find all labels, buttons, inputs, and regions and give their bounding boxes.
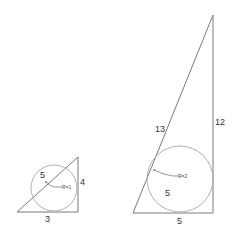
- small-vertical-label: 4: [80, 177, 85, 187]
- small-base-label: 3: [45, 214, 50, 224]
- small-radius-dot: [45, 181, 47, 183]
- small-radius-leader: [46, 182, 62, 187]
- large-radius-label: R=2: [178, 173, 188, 179]
- large-base-label: 5: [177, 216, 182, 226]
- large-vertical-label: 12: [215, 117, 225, 127]
- large-incircle: [147, 146, 213, 212]
- small-triangle: 5 4 3 R=1: [17, 157, 85, 224]
- small-radius-label: R=1: [62, 184, 72, 190]
- large-triangle-edges: [133, 15, 213, 213]
- large-hypotenuse-label: 13: [155, 124, 165, 134]
- diagram-canvas: 5 4 3 R=1 13 12 5 R=2 5: [0, 0, 236, 235]
- large-inner-label: 5: [165, 188, 170, 198]
- large-triangle: 13 12 5 R=2 5: [133, 15, 225, 226]
- small-hypotenuse-label: 5: [40, 170, 45, 180]
- large-radius-dot: [153, 169, 155, 171]
- large-radius-leader: [154, 170, 178, 176]
